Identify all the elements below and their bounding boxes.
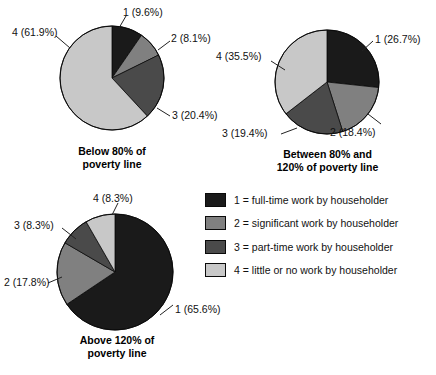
pie2-label-cat1: 1 (26.7%) <box>375 33 421 45</box>
legend-item-2: 2 = significant work by householder <box>205 212 433 236</box>
pie-above-120 <box>48 203 173 330</box>
legend-item-4: 4 = little or no work by householder <box>205 259 433 283</box>
pie3-label-cat2: 2 (17.8%) <box>4 276 50 288</box>
pie2-label-cat4: 4 (35.5%) <box>216 50 262 62</box>
leader-line-pie1-cat3 <box>157 108 170 116</box>
pie3-label-cat3: 3 (8.3%) <box>14 219 54 231</box>
pie1-label-cat4: 4 (61.9%) <box>12 26 58 38</box>
leader-line-pie3-cat4 <box>112 203 118 215</box>
pie2-slice-1 <box>327 30 379 88</box>
pie3-caption-line2: poverty line <box>57 347 177 360</box>
pie2-label-cat2: 2 (18.4%) <box>330 126 376 138</box>
pie1-caption-line1: Below 80% of <box>52 145 172 158</box>
legend-label-3: 3 = part-time work by householder <box>234 241 393 253</box>
pie1-caption-line2: poverty line <box>52 158 172 171</box>
pie1-caption: Below 80% of poverty line <box>52 145 172 170</box>
legend-swatch-1-icon <box>205 193 226 207</box>
legend-label-1: 1 = full-time work by householder <box>234 194 388 206</box>
legend-swatch-2-icon <box>205 216 226 230</box>
leader-line-pie1-cat2 <box>158 41 170 50</box>
pie2-caption: Between 80% and 120% of poverty line <box>250 148 405 173</box>
pie3-label-cat1: 1 (65.6%) <box>175 303 221 315</box>
legend-label-4: 4 = little or no work by householder <box>234 264 397 276</box>
pie3-label-cat4: 4 (8.3%) <box>93 192 133 204</box>
legend-item-3: 3 = part-time work by householder <box>205 235 433 259</box>
leader-line-pie1-cat4 <box>56 36 70 48</box>
legend-label-2: 2 = significant work by householder <box>234 217 398 229</box>
pie2-caption-line1: Between 80% and <box>250 148 405 161</box>
leader-line-pie2-cat3 <box>281 128 297 134</box>
legend-swatch-3-icon <box>205 240 226 254</box>
pie1-label-cat2: 2 (8.1%) <box>171 32 211 44</box>
legend: 1 = full-time work by householder 2 = si… <box>205 188 433 282</box>
pie3-caption-line1: Above 120% of <box>57 334 177 347</box>
pie3-caption: Above 120% of poverty line <box>57 334 177 359</box>
leader-line-pie2-cat2 <box>368 114 381 124</box>
pie2-label-cat3: 3 (19.4%) <box>222 127 268 139</box>
pie1-label-cat1: 1 (9.6%) <box>123 6 163 18</box>
pie-below-80 <box>56 16 170 130</box>
pie1-label-cat3: 3 (20.4%) <box>172 109 218 121</box>
legend-swatch-4-icon <box>205 263 226 277</box>
legend-item-1: 1 = full-time work by householder <box>205 188 433 212</box>
pie-between-80-120 <box>271 30 381 134</box>
pie2-caption-line2: 120% of poverty line <box>250 161 405 174</box>
